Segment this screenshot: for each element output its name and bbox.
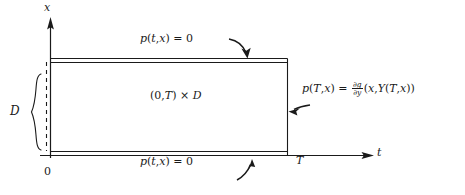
t-axis-label: t xyxy=(377,147,381,158)
bc-bottom-close: ) xyxy=(165,155,169,168)
fraction-denominator: ∂y xyxy=(352,88,363,97)
tc-eq: = xyxy=(338,82,347,95)
pointer-right-shaft xyxy=(294,105,310,109)
bc-bottom-eq: = xyxy=(173,155,182,168)
partial-derivative-fraction: ∂g∂y xyxy=(352,81,363,98)
tc-arg1: T xyxy=(313,82,320,95)
tc-rhs-close: ) xyxy=(411,82,415,95)
math-diagram: x t 0 T D p(t,x) = 0 p(t,x) = 0 (0,T) × … xyxy=(0,0,465,195)
fraction-numerator: ∂g xyxy=(352,81,363,89)
bottom-boundary-condition-label: p(t,x) = 0 xyxy=(140,156,193,167)
bc-top-eq: = xyxy=(173,32,182,45)
t-axis xyxy=(40,152,374,159)
tc-rhs-fn: Y xyxy=(378,82,385,95)
tc-num-var: g xyxy=(357,80,362,89)
tc-fn: p xyxy=(302,82,309,95)
x-axis-label: x xyxy=(44,2,50,13)
region-times-symbol: × xyxy=(180,89,189,102)
top-boundary-condition-label: p(t,x) = 0 xyxy=(140,33,193,44)
pointer-top xyxy=(229,39,251,59)
pointer-top-head xyxy=(241,48,250,59)
pointer-bottom xyxy=(237,159,255,180)
t-terminal-tick-label: T xyxy=(296,155,303,166)
pointer-right xyxy=(289,105,311,116)
bc-top-close: ) xyxy=(165,32,169,45)
domain-brace-path xyxy=(32,74,42,150)
tc-den-var: y xyxy=(357,88,361,97)
origin-label: 0 xyxy=(44,166,51,177)
tc-close: ) xyxy=(330,82,334,95)
region-interval-close: ) xyxy=(172,89,176,102)
bc-bottom-value: 0 xyxy=(186,155,193,168)
pointer-bottom-head xyxy=(248,159,255,170)
domain-brace xyxy=(32,74,42,150)
x-axis xyxy=(47,17,54,158)
terminal-condition-label: p(T,x) = ∂g∂y(x,Y(T,x)) xyxy=(302,81,415,98)
region-interval-open: (0, xyxy=(150,89,165,102)
bc-top-fn: p xyxy=(140,32,147,45)
bc-bottom-fn: p xyxy=(140,155,147,168)
region-label: (0,T) × D xyxy=(150,90,201,101)
domain-brace-label: D xyxy=(10,105,20,117)
bc-top-value: 0 xyxy=(186,32,193,45)
pointer-bottom-shaft xyxy=(237,165,251,181)
spacetime-rectangle xyxy=(47,59,288,156)
tc-rhs-inner-1: T xyxy=(389,82,396,95)
region-domain: D xyxy=(193,89,202,102)
